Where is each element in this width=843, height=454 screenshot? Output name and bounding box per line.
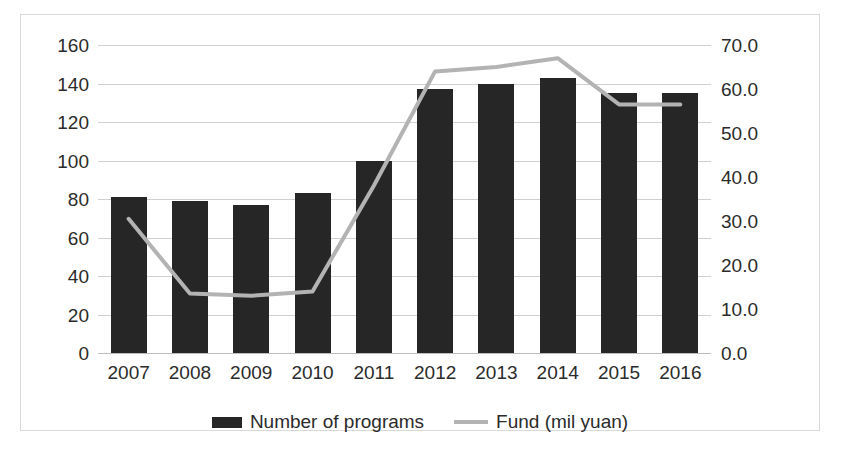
- left-tick-0: 0: [21, 344, 89, 363]
- left-tick-60: 60: [21, 229, 89, 248]
- x-tick-2007: 2007: [98, 363, 159, 382]
- bar-2012: [417, 89, 453, 353]
- bar-2014: [540, 78, 576, 353]
- gridline: [98, 45, 711, 46]
- right-tick-50.0: 50.0: [721, 124, 758, 143]
- legend-bar-swatch-icon: [212, 417, 242, 428]
- left-tick-160: 160: [21, 36, 89, 55]
- right-tick-40.0: 40.0: [721, 168, 758, 187]
- x-tick-2016: 2016: [650, 363, 711, 382]
- chart-legend: Number of programsFund (mil yuan): [21, 411, 819, 433]
- x-tick-2012: 2012: [405, 363, 466, 382]
- chart-frame: 020406080100120140160 0.010.020.030.040.…: [20, 14, 820, 431]
- x-tick-2008: 2008: [159, 363, 220, 382]
- plot-area: [98, 45, 711, 353]
- bar-2015: [601, 93, 637, 353]
- left-tick-40: 40: [21, 267, 89, 286]
- bar-2007: [111, 197, 147, 353]
- gridline: [98, 84, 711, 85]
- x-tick-2010: 2010: [282, 363, 343, 382]
- right-tick-60.0: 60.0: [721, 80, 758, 99]
- legend-item-2[interactable]: Fund (mil yuan): [454, 411, 628, 433]
- bar-2016: [662, 93, 698, 353]
- x-tick-2013: 2013: [466, 363, 527, 382]
- bar-2009: [233, 205, 269, 353]
- legend-label: Number of programs: [250, 411, 424, 433]
- legend-line-swatch-icon: [454, 420, 488, 424]
- right-tick-10.0: 10.0: [721, 300, 758, 319]
- left-tick-100: 100: [21, 152, 89, 171]
- fund-line-path: [129, 58, 681, 296]
- bar-2010: [295, 193, 331, 353]
- x-tick-2014: 2014: [527, 363, 588, 382]
- left-tick-20: 20: [21, 306, 89, 325]
- gridline: [98, 353, 711, 354]
- bar-2008: [172, 201, 208, 353]
- left-tick-120: 120: [21, 113, 89, 132]
- x-tick-2011: 2011: [343, 363, 404, 382]
- right-tick-20.0: 20.0: [721, 256, 758, 275]
- right-tick-30.0: 30.0: [721, 212, 758, 231]
- left-tick-140: 140: [21, 75, 89, 94]
- right-tick-70.0: 70.0: [721, 36, 758, 55]
- bar-2013: [478, 84, 514, 354]
- bar-2011: [356, 161, 392, 354]
- left-tick-80: 80: [21, 190, 89, 209]
- legend-item-1[interactable]: Number of programs: [212, 411, 424, 433]
- x-tick-2009: 2009: [221, 363, 282, 382]
- x-tick-2015: 2015: [588, 363, 649, 382]
- legend-label: Fund (mil yuan): [496, 411, 628, 433]
- right-tick-0.0: 0.0: [721, 344, 747, 363]
